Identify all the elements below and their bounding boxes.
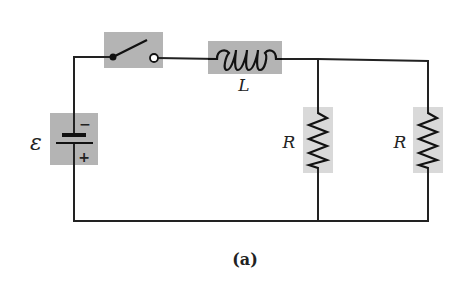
circuit-diagram: L − + ε R R (a)	[0, 0, 455, 281]
switch-contact-circle	[150, 54, 158, 62]
emf-label: ε	[30, 130, 42, 155]
battery-negative-sign: −	[79, 116, 91, 132]
wires	[74, 57, 428, 221]
figure-caption: (a)	[232, 250, 258, 269]
inductor-label: L	[237, 75, 249, 95]
battery-positive-sign: +	[78, 149, 90, 165]
resistor-2-label: R	[393, 132, 407, 152]
resistor-1-label: R	[282, 132, 296, 152]
